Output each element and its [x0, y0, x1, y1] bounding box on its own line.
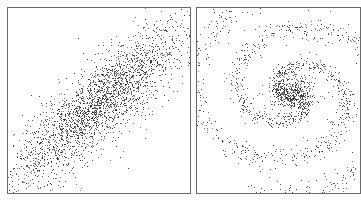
scatter-panel-spiral	[196, 7, 361, 194]
scatter-plot-spiral	[197, 8, 360, 193]
scatter-panel-gaussian	[7, 7, 191, 194]
scatter-plot-gaussian	[8, 8, 190, 193]
